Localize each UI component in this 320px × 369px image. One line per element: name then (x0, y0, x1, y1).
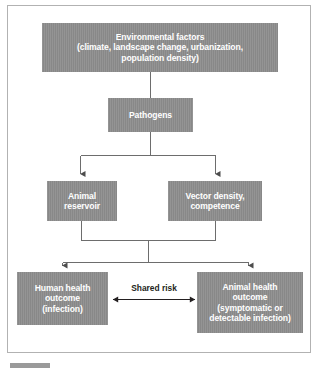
node-environmental-line-3: population density) (121, 53, 198, 63)
node-animal-reservoir-line-2: reservoir (64, 201, 100, 211)
node-vector-density-competence: Vector density, competence (168, 181, 262, 221)
node-vector-line-1: Vector density, (186, 191, 245, 201)
node-animal-health-line-1: Animal health (222, 282, 277, 292)
node-human-health-line-2: outcome (45, 293, 80, 303)
node-environmental-line-1: Environmental factors (116, 32, 205, 42)
node-animal-health-line-4: detectable infection) (209, 313, 290, 323)
node-pathogens: Pathogens (108, 98, 193, 132)
figure-container: Environmental factors (climate, landscap… (0, 0, 320, 369)
node-vector-line-2: competence (190, 201, 239, 211)
caption-strip (10, 362, 310, 369)
node-animal-health-outcome: Animal health outcome (symptomatic or de… (197, 272, 303, 333)
caption-swatch (10, 363, 50, 368)
node-human-health-line-3: (infection) (42, 304, 82, 314)
node-human-health-line-1: Human health (35, 283, 91, 293)
node-pathogens-line-1: Pathogens (129, 110, 172, 120)
node-environmental-line-2: (climate, landscape change, urbanization… (77, 42, 243, 52)
node-human-health-outcome: Human health outcome (infection) (17, 272, 108, 325)
node-environmental-factors: Environmental factors (climate, landscap… (42, 23, 278, 72)
node-animal-reservoir-line-1: Animal (68, 191, 96, 201)
node-animal-health-line-3: (symptomatic or (217, 303, 282, 313)
node-animal-reservoir: Animal reservoir (47, 181, 117, 221)
node-animal-health-line-2: outcome (232, 292, 267, 302)
shared-risk-label: Shared risk (112, 283, 196, 293)
